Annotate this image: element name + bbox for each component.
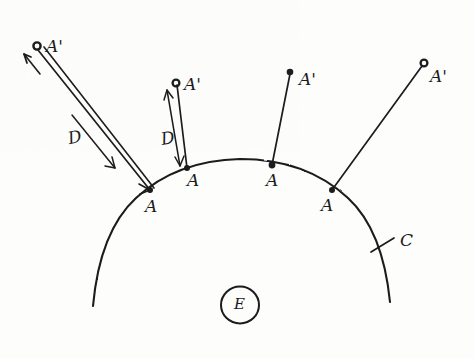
label-a-prime-3: A'	[299, 71, 316, 88]
label-curve-c: C	[400, 232, 413, 249]
point-marker-a-prime-3	[287, 69, 294, 76]
point-marker-a-prime-2	[173, 80, 180, 87]
point-marker-a-prime-1	[33, 42, 40, 49]
label-a-prime-4: A'	[430, 68, 447, 85]
label-a-4: A	[321, 197, 333, 214]
label-a-2: A	[187, 172, 199, 189]
point-marker-a-prime-4	[421, 60, 428, 67]
label-a-prime-1: A'	[46, 38, 63, 55]
label-a-prime-2: A'	[184, 76, 201, 93]
diagram-canvas: A' A D A' A D A' A A' A C E	[0, 0, 474, 359]
curve-surface-c	[93, 159, 390, 306]
displacement-pair-1	[24, 42, 154, 194]
displacement-pair-3	[269, 69, 294, 169]
point-marker-a-3	[269, 162, 276, 169]
label-d-1: D	[66, 128, 83, 147]
label-interior-e: E	[234, 297, 245, 312]
label-d-2: D	[160, 129, 176, 148]
displacement-pair-4	[329, 60, 427, 193]
label-a-3: A	[266, 172, 278, 189]
curve-label-leader	[371, 238, 394, 252]
point-marker-a-4	[329, 187, 335, 193]
label-a-1: A	[145, 198, 157, 215]
